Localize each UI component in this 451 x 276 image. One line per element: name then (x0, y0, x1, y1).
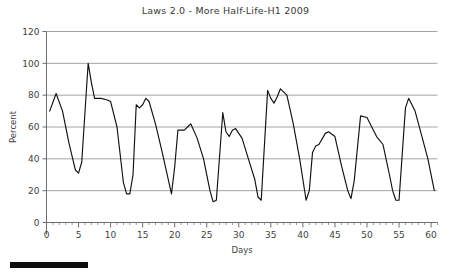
x-tick-label: 45 (329, 230, 340, 240)
x-tick-label: 35 (265, 230, 276, 240)
x-tick-label: 60 (425, 230, 437, 240)
x-tick-label: 20 (169, 230, 181, 240)
line-chart-plot: 020406080100120Percent051015202530354045… (0, 0, 451, 276)
x-tick-label: 0 (44, 230, 50, 240)
y-tick-label: 60 (28, 122, 40, 132)
y-tick-label: 40 (28, 154, 40, 164)
x-tick-label: 50 (361, 230, 373, 240)
y-tick-label: 100 (22, 59, 39, 69)
x-tick-label: 10 (105, 230, 117, 240)
x-tick-label: 40 (297, 230, 309, 240)
x-axis-label: Days (231, 245, 253, 255)
x-tick-label: 30 (233, 230, 245, 240)
y-tick-label: 120 (22, 27, 39, 37)
x-tick-label: 25 (201, 230, 212, 240)
x-tick-label: 55 (393, 230, 404, 240)
x-tick-label: 5 (76, 230, 82, 240)
y-axis-label: Percent (8, 110, 18, 143)
y-tick-label: 80 (28, 90, 40, 100)
y-tick-label: 20 (28, 186, 40, 196)
y-tick-label: 0 (34, 218, 40, 228)
scrollbar-thumb[interactable] (10, 262, 88, 268)
chart-figure: Laws 2.0 - More Half-Life-H1 2009 020406… (0, 0, 451, 276)
data-line-series (50, 63, 435, 201)
x-tick-label: 15 (137, 230, 148, 240)
